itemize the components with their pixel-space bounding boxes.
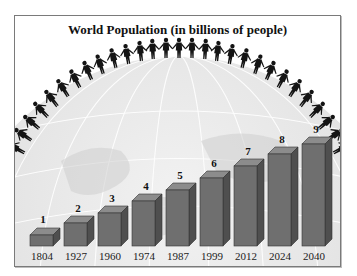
bar-value-label: 3	[109, 192, 115, 204]
chart-title: World Population (in billions of people)	[15, 22, 340, 38]
bar-year-label: 1999	[201, 250, 224, 262]
bar-value-label: 7	[245, 145, 251, 157]
chart-scene: 1 1804 2 1927 3 1960	[14, 15, 341, 267]
bar-value-label: 5	[177, 169, 183, 181]
bar-year-label: 1960	[99, 250, 122, 262]
bar-year-label: 2040	[303, 250, 326, 262]
chart-frame: 1 1804 2 1927 3 1960	[14, 15, 341, 267]
bar-year-label: 1974	[133, 250, 156, 262]
bar-year-label: 1804	[31, 250, 54, 262]
bar-value-label: 6	[211, 157, 217, 169]
bar-2024: 8 2024	[268, 133, 298, 262]
bar-value-label: 1	[40, 213, 46, 225]
bar-year-label: 2024	[269, 250, 292, 262]
bar-year-label: 1987	[167, 250, 190, 262]
bar-year-label: 2012	[235, 250, 257, 262]
bar-value-label: 8	[279, 133, 285, 145]
bar-year-label: 1927	[65, 250, 88, 262]
bar-value-label: 2	[75, 202, 81, 214]
bar-2040: 9 2040	[302, 123, 332, 262]
bar-value-label: 4	[143, 180, 149, 192]
bar-value-label: 9	[313, 123, 319, 135]
